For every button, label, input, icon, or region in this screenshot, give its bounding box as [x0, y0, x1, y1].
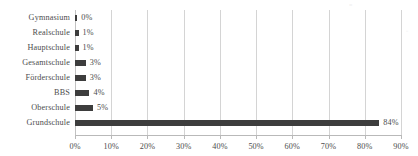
bar-row: Gesamtschule3%	[0, 55, 418, 70]
x-axis-tick-label: 50%	[248, 140, 263, 153]
x-axis-tick	[111, 135, 112, 139]
x-axis-tick	[75, 135, 76, 139]
category-label: Grundschule	[0, 115, 70, 130]
bar	[75, 45, 79, 51]
x-axis-tick-label: 10%	[103, 140, 118, 153]
category-label: Oberschule	[0, 100, 70, 115]
bar-row: Hauptschule1%	[0, 40, 418, 55]
bar-row: Grundschule84%	[0, 115, 418, 130]
bar-row: Gymnasium0%	[0, 10, 418, 25]
horizontal-bar-chart: Gymnasium0%Realschule1%Hauptschule1%Gesa…	[0, 0, 418, 156]
x-axis-line	[75, 135, 402, 136]
bar-row: BBS4%	[0, 85, 418, 100]
bar	[75, 120, 379, 126]
bar-row: Oberschule5%	[0, 100, 418, 115]
bar-value-label: 4%	[93, 85, 104, 100]
bar-container	[75, 100, 93, 115]
bar-value-label: 1%	[83, 40, 94, 55]
x-axis-tick	[329, 135, 330, 139]
x-axis-tick	[147, 135, 148, 139]
category-label: Gesamtschule	[0, 55, 70, 70]
bar-container	[75, 40, 79, 55]
category-label: Förderschule	[0, 70, 70, 85]
bar	[75, 15, 77, 21]
x-axis-tick-label: 20%	[140, 140, 155, 153]
bar-rows: Gymnasium0%Realschule1%Hauptschule1%Gesa…	[0, 10, 418, 135]
category-label: Gymnasium	[0, 10, 70, 25]
bar-container	[75, 85, 89, 100]
bar-value-label: 1%	[83, 25, 94, 40]
x-axis-tick	[256, 135, 257, 139]
bar-container	[75, 115, 379, 130]
category-label: Hauptschule	[0, 40, 70, 55]
bar	[75, 90, 89, 96]
bar	[75, 105, 93, 111]
bar-container	[75, 70, 86, 85]
x-axis-tick	[401, 135, 402, 139]
bar	[75, 60, 86, 66]
bar-container	[75, 55, 86, 70]
bar	[75, 75, 86, 81]
bar-row: Förderschule3%	[0, 70, 418, 85]
bar	[75, 30, 79, 36]
x-axis-tick	[365, 135, 366, 139]
x-axis-tick-label: 40%	[212, 140, 227, 153]
bar-container	[75, 25, 79, 40]
bar-container	[75, 10, 77, 25]
x-axis-tick-label: 80%	[357, 140, 372, 153]
scan-artifact-top: ≡	[349, 2, 353, 8]
bar-row: Realschule1%	[0, 25, 418, 40]
bar-value-label: 0%	[81, 10, 92, 25]
category-label: BBS	[0, 85, 70, 100]
bar-value-label: 84%	[383, 115, 398, 130]
bar-value-label: 3%	[90, 55, 101, 70]
x-axis-tick-label: 30%	[176, 140, 191, 153]
x-axis-tick-label: 70%	[321, 140, 336, 153]
x-axis-tick-label: 60%	[285, 140, 300, 153]
x-axis-tick	[220, 135, 221, 139]
x-axis-tick-label: 0%	[69, 140, 80, 153]
x-axis-tick-label: 90%	[393, 140, 408, 153]
bar-value-label: 5%	[97, 100, 108, 115]
x-axis-tick	[292, 135, 293, 139]
category-label: Realschule	[0, 25, 70, 40]
x-axis-tick	[184, 135, 185, 139]
bar-value-label: 3%	[90, 70, 101, 85]
